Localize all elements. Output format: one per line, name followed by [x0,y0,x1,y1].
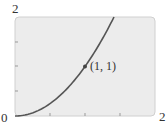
plot [0,0,167,126]
y-max-label: 2 [12,2,19,15]
point-marker [83,65,87,69]
point-label: (1, 1) [90,60,116,72]
origin-label: 0 [1,111,8,124]
x-max-label: 2 [159,110,166,123]
